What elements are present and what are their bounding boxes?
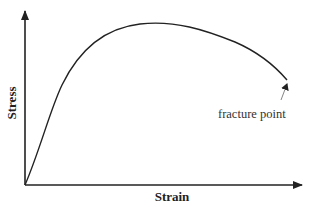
x-axis-label: Strain (155, 189, 190, 204)
diagram-svg: fracture point Strain Stress (0, 0, 310, 207)
y-axis-label: Stress (4, 87, 19, 120)
fracture-point-label: fracture point (218, 107, 286, 121)
stress-strain-diagram: fracture point Strain Stress (0, 0, 310, 207)
fracture-arrow (281, 84, 287, 100)
stress-strain-curve (25, 23, 287, 185)
